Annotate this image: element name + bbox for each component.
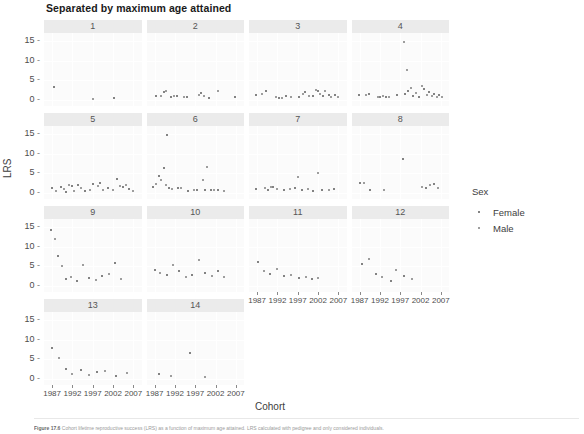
gridline-vertical [236,33,237,106]
data-point [328,189,330,191]
gridline-vertical [93,126,94,199]
x-axis-tick-mark [93,385,94,388]
data-point [328,94,330,96]
gridline-vertical [52,219,53,292]
data-point [97,185,99,187]
data-point [108,273,110,275]
y-axis-tick-label: 10 - [24,241,40,251]
data-point [382,95,384,97]
gridline-vertical [72,33,73,106]
gridline-vertical [277,219,278,292]
gridline-vertical [72,126,73,199]
gridline-vertical [421,33,422,106]
facet-strip-label: 10 [147,206,245,219]
data-point [204,376,206,378]
data-point [365,94,367,96]
data-point [55,190,57,192]
data-point [381,276,383,278]
data-point [122,186,124,188]
figure-caption: Figure 17.6 Cohort lifetime reproductive… [34,425,579,432]
data-point [312,95,314,97]
data-point [418,96,420,98]
data-point [180,187,182,189]
x-axis-tick-mark [441,292,442,295]
data-point [204,272,206,274]
facet-panel-2: 2 [147,20,245,106]
x-axis-label: Cohort [255,401,285,412]
facet-panel-8: 8 [352,113,450,199]
data-point [57,255,59,257]
gridline-vertical [277,33,278,106]
data-point [54,238,56,240]
legend-item-male[interactable]: Male [472,220,577,236]
data-point [283,275,285,277]
gridline-vertical [441,219,442,292]
gridline-vertical [257,219,258,292]
data-point [368,93,370,95]
plot-area [352,219,450,292]
gridline-vertical [133,126,134,199]
data-point [359,182,361,184]
data-point [170,96,172,98]
caption-rule [34,418,579,419]
legend-item-female[interactable]: Female [472,204,577,220]
data-point [421,85,423,87]
facet-strip: 11 [249,206,347,219]
gridline-vertical [155,312,156,385]
data-point [113,97,115,99]
data-point [410,87,412,89]
facet-strip: 5 [44,113,142,126]
facet-strip: 12 [352,206,450,219]
data-point [171,188,173,190]
data-point [163,167,165,169]
data-point [120,278,122,280]
data-point [412,95,414,97]
facet-strip: 4 [352,20,450,33]
data-point [304,91,306,93]
data-point [234,96,236,98]
legend-items: FemaleMale [472,204,577,236]
data-point [223,190,225,192]
data-point [116,178,118,180]
x-axis-tick-mark [277,292,278,295]
data-point [363,182,365,184]
data-point [433,93,435,95]
data-point [168,187,170,189]
facet-strip-label: 7 [249,113,347,126]
gridline-vertical [338,126,339,199]
x-axis-tick-mark [298,292,299,295]
facet-strip: 9 [44,206,142,219]
x-axis-tick-mark [318,292,319,295]
gridline-vertical [257,33,258,106]
data-point [187,190,189,192]
data-point [159,272,161,274]
data-point [65,368,67,370]
data-point [68,184,70,186]
data-point [298,277,300,279]
data-point [114,262,116,264]
facet-strip-label: 11 [249,206,347,219]
gridline-vertical [318,219,319,292]
x-axis-tick-mark [400,292,401,295]
data-point [368,258,370,260]
gridline-vertical [360,126,361,199]
data-point [107,187,109,189]
gridline-vertical [113,219,114,292]
x-axis-tick-mark [113,385,114,388]
gridline-vertical [72,219,73,292]
plot-area [352,33,450,106]
data-point [165,90,167,92]
facet-strip: 13 [44,299,142,312]
data-point [88,374,90,376]
facet-strip-label: 4 [352,20,450,33]
x-axis-tick-mark [380,292,381,295]
data-point [112,189,114,191]
legend-title: Sex [472,186,577,197]
data-point [125,184,127,186]
data-point [102,189,104,191]
data-point [185,276,187,278]
facet-strip-label: 9 [44,206,142,219]
y-axis-tick-label: 0 - [29,187,40,197]
gridline-vertical [380,33,381,106]
facet-panel-6: 6 [147,113,245,199]
